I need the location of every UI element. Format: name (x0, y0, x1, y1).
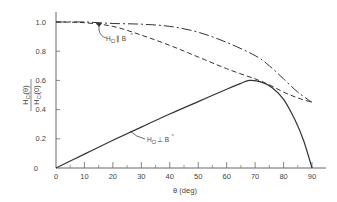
series-line (56, 22, 312, 102)
series-line (56, 22, 312, 102)
svg-text:HCl(θ): HCl(θ) (21, 85, 31, 105)
chart: 0102030405060708090 00.20.40.60.81.0 HCl… (0, 0, 337, 202)
x-tick-label: 40 (166, 172, 174, 181)
y-tick-label: 0.8 (36, 47, 46, 56)
svg-text:HCl∥ B: HCl∥ B (106, 35, 126, 44)
y-tick-label: 0.6 (36, 76, 46, 85)
axes: 0102030405060708090 00.20.40.60.81.0 (34, 12, 326, 181)
y-tick-label: 0.2 (36, 134, 46, 143)
svg-text:HCl(0): HCl(0) (32, 85, 42, 105)
y-tick-label: 1.0 (36, 18, 46, 27)
x-tick-label: 20 (109, 172, 117, 181)
x-tick-label: 0 (54, 172, 58, 181)
x-ticks: 0102030405060708090 (54, 162, 316, 181)
series-line (56, 80, 312, 168)
x-axis-label: θ (deg) (173, 186, 197, 195)
y-tick-label: 0 (34, 164, 38, 173)
svg-text:HCl⊥ B: HCl⊥ B (147, 136, 169, 145)
series-group (56, 22, 312, 168)
annotation-perpendicular: HCl⊥ B (130, 131, 174, 145)
y-tick-label: 0.4 (36, 105, 46, 114)
x-tick-label: 80 (279, 172, 287, 181)
x-tick-label: 30 (137, 172, 145, 181)
x-tick-label: 50 (194, 172, 202, 181)
x-tick-label: 60 (222, 172, 230, 181)
x-tick-label: 70 (251, 172, 259, 181)
annotation-parallel: HCl∥ B (96, 23, 133, 44)
x-tick-label: 90 (308, 172, 316, 181)
x-tick-label: 10 (80, 172, 88, 181)
